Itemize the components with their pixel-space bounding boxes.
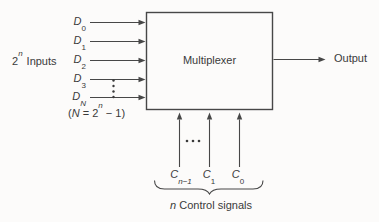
input-arrows (90, 20, 146, 100)
control-label-c0: C0 (213, 168, 263, 183)
inputs-group-sup: n (18, 49, 22, 58)
input-label-d2: D2 (40, 53, 86, 68)
control-arrows (177, 113, 242, 168)
inputs-note: (N = 2n − 1) (68, 106, 125, 120)
horizontal-ellipsis-icon (186, 140, 201, 143)
multiplexer-diagram: 2nInputs D0 D1 D2 D3 DN (N = 2n − 1) Mul… (0, 0, 379, 222)
vertical-ellipsis-icon (112, 79, 114, 98)
input-label-d3: D3 (40, 72, 86, 87)
multiplexer-label: Multiplexer (146, 54, 273, 67)
input-label-d0: D0 (40, 15, 86, 30)
input-label-d1: D1 (40, 34, 86, 49)
input-label-dn: DN (40, 90, 86, 105)
output-label: Output (334, 52, 367, 65)
output-arrow (274, 57, 326, 62)
controls-caption: n Control signals (149, 199, 273, 212)
